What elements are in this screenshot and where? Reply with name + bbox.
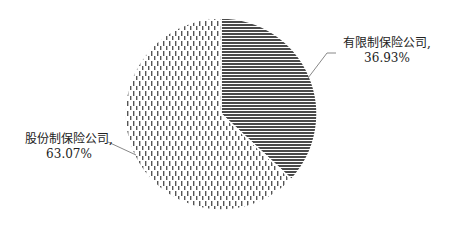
slice-name: 有限制保险公司,	[328, 36, 446, 51]
slice-name: 股份制保险公司,	[14, 132, 124, 147]
data-label-limited-insurer: 有限制保险公司, 36.93%	[328, 36, 446, 66]
slice-percent: 63.07%	[14, 147, 124, 162]
slice-percent: 36.93%	[328, 51, 446, 66]
pie-chart	[0, 0, 449, 227]
data-label-joint-stock-insurer: 股份制保险公司, 63.07%	[14, 132, 124, 162]
